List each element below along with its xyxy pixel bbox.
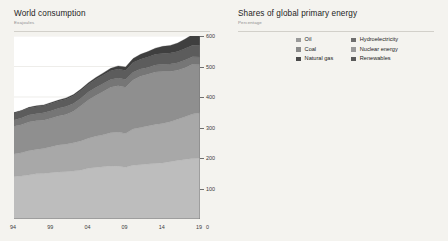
plot-area-world-consumption (14, 36, 200, 219)
legend-label: Coal (305, 47, 317, 53)
panel-shares-of-global-primary-energy: Shares of global primary energy Percenta… (224, 0, 448, 241)
legend-entry-item[interactable]: Nuclear energy (351, 45, 398, 55)
y-axis-tick (200, 36, 204, 37)
panel-world-consumption: World consumption Exajoules RenewablesHy… (0, 0, 224, 241)
legend-entry-item[interactable]: Oil (296, 35, 333, 45)
y-axis-tick (200, 97, 204, 98)
y-axis-tick (200, 158, 204, 159)
y-axis-tick-label: 500 (206, 64, 215, 70)
page-title: Shares of global primary energy (238, 9, 357, 18)
x-axis-tick-label: 14 (159, 224, 165, 230)
y-axis-tick-label: 600 (206, 33, 215, 39)
header-divider (238, 31, 434, 32)
legend-entry-item[interactable]: Coal (296, 45, 333, 55)
y-axis-zero-left: 0 (206, 224, 209, 230)
x-axis-tick-label: 99 (47, 224, 53, 230)
y-axis-tick (200, 67, 204, 68)
header-divider (14, 31, 210, 32)
legend-entry-item[interactable]: Natural gas (296, 54, 333, 64)
chart-subtitle: Exajoules (14, 20, 34, 25)
legend-label: Hydroelectricity (360, 37, 398, 43)
y-axis-tick (200, 189, 204, 190)
legend-swatch-icon (351, 47, 356, 52)
y-axis-tick-label: 400 (206, 94, 215, 100)
y-axis-tick (200, 128, 204, 129)
y-axis-tick-label: 100 (206, 186, 215, 192)
chart-board: World consumption Exajoules RenewablesHy… (0, 0, 448, 241)
legend-label: Oil (305, 37, 312, 43)
legend-swatch-icon (296, 47, 301, 52)
y-axis-tick-label: 300 (206, 125, 215, 131)
legend-shares: OilCoalNatural gas HydroelectricityNucle… (296, 35, 446, 64)
chart-subtitle: Percentage (238, 20, 262, 25)
legend-swatch-icon (296, 57, 301, 62)
legend-swatch-icon (296, 38, 301, 43)
y-axis-tick-label: 200 (206, 155, 215, 161)
legend-swatch-icon (351, 38, 356, 43)
page-title: World consumption (14, 9, 86, 18)
legend-entry-item[interactable]: Renewables (351, 54, 398, 64)
legend-label: Natural gas (305, 56, 334, 62)
legend-label: Nuclear energy (360, 47, 398, 53)
x-axis-tick-label: 09 (122, 224, 128, 230)
legend-swatch-icon (351, 57, 356, 62)
legend-label: Renewables (360, 56, 391, 62)
legend-entry-item[interactable]: Hydroelectricity (351, 35, 398, 45)
x-axis-tick-label: 94 (10, 224, 16, 230)
x-axis-tick-label: 04 (84, 224, 90, 230)
x-axis-tick-label: 19 (196, 224, 202, 230)
